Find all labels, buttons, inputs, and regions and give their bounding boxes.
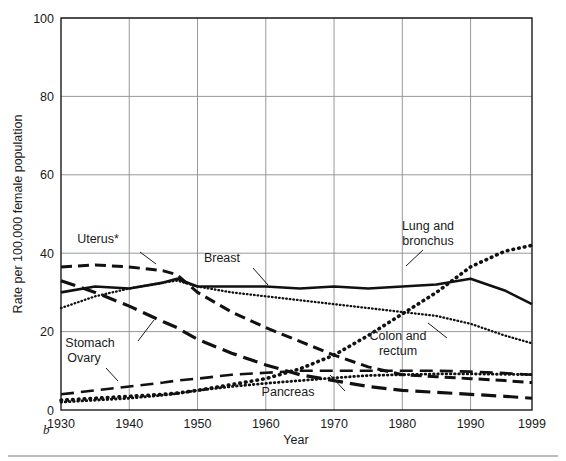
x-tick-label: 1980: [388, 417, 416, 431]
y-axis-label: Rate per 100,000 female population: [11, 115, 25, 314]
series-label-lung-and: Lung and: [402, 219, 454, 233]
series-label-pancreas: Pancreas: [262, 385, 315, 399]
x-tick-label: 1960: [252, 417, 280, 431]
x-tick-label: 1950: [184, 417, 212, 431]
figure-container: 020406080100 193019401950196019701980199…: [0, 0, 566, 461]
series-label-stomach: Stomach: [65, 336, 114, 350]
line-chart: 020406080100 193019401950196019701980199…: [0, 0, 566, 461]
x-tick-label: 1999: [518, 417, 546, 431]
y-tick-label: 100: [33, 12, 54, 26]
series-label-breast: Breast: [204, 251, 241, 265]
y-tick-label: 40: [40, 247, 54, 261]
series-label-uterus: Uterus*: [77, 232, 119, 246]
y-tick-label: 80: [40, 90, 54, 104]
series-label-rectum: rectum: [379, 344, 417, 358]
y-tick-label: 0: [47, 404, 54, 418]
figure-letter: b: [43, 422, 50, 437]
x-tick-label: 1990: [457, 417, 485, 431]
x-tick-label: 1940: [115, 417, 143, 431]
series-label-bronchus: bronchus: [402, 234, 453, 248]
series-label-colon-and: Colon and: [370, 329, 427, 343]
x-tick-label: 1930: [47, 417, 75, 431]
y-tick-label: 60: [40, 168, 54, 182]
y-tick-label: 20: [40, 325, 54, 339]
series-label-ovary: Ovary: [67, 351, 101, 365]
x-axis-label: Year: [283, 433, 308, 447]
x-tick-label: 1970: [320, 417, 348, 431]
